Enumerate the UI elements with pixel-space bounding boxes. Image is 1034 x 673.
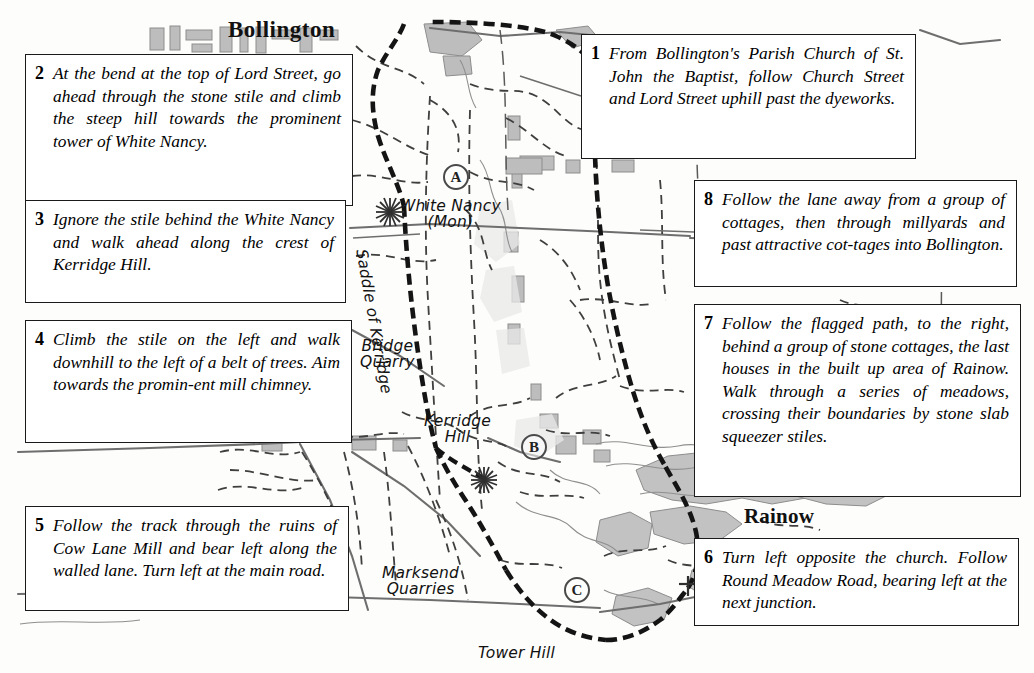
- instruction-box-3: 3 Ignore the stile behind the White Nanc…: [25, 200, 346, 303]
- marksend-line1: Marksend: [382, 565, 459, 581]
- white-nancy-name: White Nancy: [400, 198, 501, 214]
- instruction-text: Follow the track through the ruins of Co…: [53, 514, 337, 582]
- instruction-box-1: 1 From Bollington's Parish Church of St.…: [581, 34, 916, 159]
- instruction-box-2: 2 At the bend at the top of Lord Street,…: [25, 54, 353, 206]
- instruction-box-7: 7 Follow the flagged path, to the right,…: [694, 304, 1021, 497]
- instruction-number: 5: [35, 514, 44, 537]
- instruction-text: Climb the stile on the left and walk dow…: [53, 328, 340, 396]
- instruction-box-5: 5 Follow the track through the ruins of …: [25, 506, 349, 611]
- map-marker-b[interactable]: B: [521, 434, 547, 460]
- instruction-text: Follow the lane away from a group of cot…: [722, 188, 1005, 256]
- route-map-page: Bollington Rainow White Nancy (Mon) Brid…: [0, 0, 1034, 673]
- marksend-line2: Quarries: [382, 581, 459, 597]
- instruction-number: 4: [35, 328, 44, 351]
- instruction-text: From Bollington's Parish Church of St. J…: [609, 42, 904, 110]
- map-marker-c[interactable]: C: [564, 577, 590, 603]
- map-label-marksend-quarries: Marksend Quarries: [382, 565, 459, 598]
- instruction-box-4: 4 Climb the stile on the left and walk d…: [25, 320, 352, 443]
- map-label-white-nancy: White Nancy (Mon): [400, 198, 501, 231]
- map-marker-a[interactable]: A: [443, 164, 469, 190]
- white-nancy-sublabel: (Mon): [400, 214, 501, 230]
- map-label-kerridge-hill: Kerridge Hill: [424, 413, 491, 446]
- instruction-number: 1: [591, 42, 600, 65]
- instruction-box-8: 8 Follow the lane away from a group of c…: [694, 180, 1017, 287]
- kerridge-hill-line2: Hill: [424, 429, 491, 445]
- instruction-text: At the bend at the top of Lord Street, g…: [53, 62, 341, 152]
- instruction-text: Follow the flagged path, to the right, b…: [722, 312, 1009, 447]
- instruction-number: 3: [35, 208, 44, 231]
- map-label-bollington: Bollington: [228, 18, 335, 42]
- instruction-text: Turn left opposite the church. Follow Ro…: [722, 546, 1007, 614]
- instruction-text: Ignore the stile behind the White Nancy …: [53, 208, 334, 276]
- instruction-number: 6: [704, 546, 713, 569]
- instruction-box-6: 6 Turn left opposite the church. Follow …: [694, 538, 1019, 626]
- kerridge-hill-line1: Kerridge: [424, 413, 491, 429]
- map-label-rainow: Rainow: [744, 505, 814, 527]
- map-label-tower-hill: Tower Hill: [478, 645, 555, 661]
- instruction-number: 7: [704, 312, 713, 335]
- instruction-number: 8: [704, 188, 713, 211]
- instruction-number: 2: [35, 62, 44, 85]
